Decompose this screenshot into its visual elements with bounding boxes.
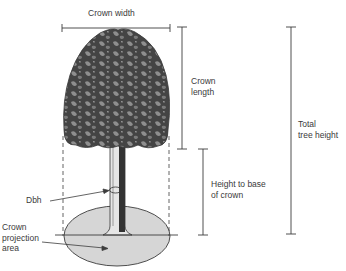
crown-length-dimension <box>177 27 187 149</box>
tree-crown <box>64 29 170 148</box>
trunk-shadow <box>119 140 125 232</box>
dbh-leader-arrow <box>50 189 109 201</box>
crown-length-label: Crown length <box>191 76 216 97</box>
crown-width-label: Crown width <box>88 8 135 19</box>
tree-diagram <box>0 0 346 271</box>
total-height-label: Total tree height <box>298 119 338 140</box>
height-to-base-label: Height to base of crown <box>211 179 266 200</box>
crown-projection-label: Crown projection area <box>2 222 39 254</box>
dbh-label: Dbh <box>26 195 42 206</box>
height-to-base-dimension <box>198 149 208 235</box>
total-height-dimension <box>286 27 296 234</box>
